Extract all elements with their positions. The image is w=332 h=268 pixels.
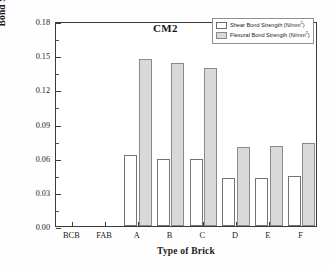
y-axis-tick-mark (56, 228, 61, 229)
chart-legend: Shear Bond Strength (N/mm2) Flexural Bon… (212, 18, 314, 44)
y-axis-tick-label: 0.03 (20, 188, 50, 197)
x-axis-tick-mark (72, 222, 73, 227)
y-axis-tick-label: 0.12 (20, 86, 50, 95)
legend-swatch-flexural-icon (216, 32, 227, 39)
chart-figure: Bond Strength (N/mm2) 0.000.030.060.090.… (0, 0, 332, 268)
y-axis-tick-mark (56, 23, 61, 24)
legend-label-shear: Shear Bond Strength (N/mm2) (230, 23, 305, 29)
bar-flexural-f (302, 143, 315, 226)
chart-annotation-label: CM2 (153, 22, 178, 34)
y-axis-tick-mark (56, 91, 61, 92)
y-axis-minor-tick-mark (56, 74, 59, 75)
bar-flexural-d (237, 147, 250, 226)
y-axis-minor-tick-mark (56, 177, 59, 178)
y-axis-tick-mark (56, 160, 61, 161)
bar-flexural-c (204, 68, 217, 226)
y-axis-minor-tick-mark (56, 211, 59, 212)
plot-area: CM2 Shear Bond Strength (N/mm2) Flexural… (55, 22, 317, 227)
bar-shear-d (222, 178, 235, 226)
y-axis-tick-mark (56, 57, 61, 58)
y-axis-tick-mark (56, 126, 61, 127)
bar-shear-e (255, 178, 268, 226)
x-axis-title: Type of Brick (55, 246, 317, 256)
legend-swatch-shear-icon (216, 22, 227, 29)
y-axis-tick-label: 0.00 (20, 223, 50, 232)
bar-flexural-e (270, 146, 283, 226)
legend-item-shear: Shear Bond Strength (N/mm2) (216, 22, 310, 31)
bar-shear-b (157, 159, 170, 226)
bar-shear-a (124, 155, 137, 226)
y-axis-tick-label: 0.09 (20, 120, 50, 129)
y-axis-tick-label: 0.06 (20, 154, 50, 163)
y-axis-minor-tick-mark (56, 40, 59, 41)
bar-shear-f (288, 176, 301, 226)
bar-shear-c (190, 159, 203, 226)
y-axis-title-text: Bond Strength (N/mm (0, 0, 7, 26)
y-axis-minor-tick-mark (56, 143, 59, 144)
x-axis-tick-label: F (281, 231, 321, 240)
legend-label-flexural: Flexural Bond Strength (N/mm2) (230, 33, 310, 39)
bar-flexural-b (171, 63, 184, 226)
y-axis-tick-label: 0.15 (20, 52, 50, 61)
y-axis-minor-tick-mark (56, 108, 59, 109)
y-axis-tick-mark (56, 194, 61, 195)
y-axis-tick-label: 0.18 (20, 18, 50, 27)
bar-flexural-a (139, 59, 152, 226)
y-axis-title: Bond Strength (N/mm2) (0, 0, 7, 52)
x-axis-tick-mark (105, 222, 106, 227)
legend-item-flexural: Flexural Bond Strength (N/mm2) (216, 32, 310, 41)
